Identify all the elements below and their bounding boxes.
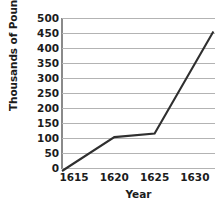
x-tick-label: 1615 [54, 171, 94, 184]
y-tick-label: 200 [29, 103, 59, 113]
x-tick-label: 1620 [94, 171, 134, 184]
y-tick-label: 450 [29, 28, 59, 38]
y-tick-label: 250 [29, 88, 59, 98]
y-tick-label: 100 [29, 133, 59, 143]
y-tick-label: 150 [29, 118, 59, 128]
line-chart: Thousands of Pounds 50045040035030025020… [0, 0, 215, 211]
x-axis-title: Year [62, 188, 215, 200]
y-tick-label: 350 [29, 58, 59, 68]
x-axis-tick-labels: 1615162016251630 [0, 171, 215, 187]
x-tick-label: 1630 [175, 171, 215, 184]
plot-area [62, 18, 215, 168]
y-tick-label: 400 [29, 43, 59, 53]
y-tick-label: 300 [29, 73, 59, 83]
series-polyline [62, 32, 213, 172]
data-line-series [60, 0, 215, 180]
x-tick-label: 1625 [135, 171, 175, 184]
y-tick-label: 50 [29, 148, 59, 158]
y-tick-label: 500 [29, 13, 59, 23]
y-axis-title: Thousands of Pounds [7, 0, 19, 111]
